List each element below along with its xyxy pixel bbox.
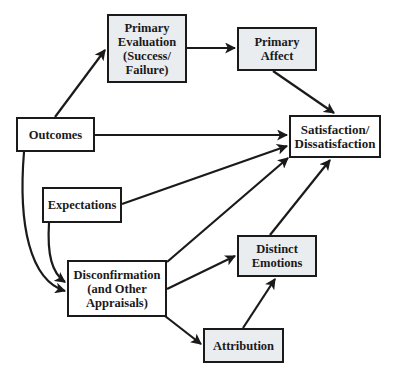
diagram-canvas: Outcomes Primary Evaluation (Success/ Fa…: [0, 0, 394, 376]
node-expectations: Expectations: [42, 187, 122, 223]
node-attribution: Attribution: [203, 328, 284, 363]
edge-primary-affect-to-satisfaction: [273, 71, 334, 113]
edge-disconfirmation-to-distinct-emotions: [167, 256, 235, 289]
edge-outcomes-to-primary-evaluation: [55, 50, 105, 117]
node-primary-affect: Primary Affect: [237, 27, 317, 71]
edge-distinct-emotions-to-satisfaction: [270, 160, 330, 235]
node-primary-evaluation: Primary Evaluation (Success/ Failure): [107, 14, 187, 83]
node-satisfaction-dissatisfaction: Satisfaction/ Dissatisfaction: [289, 115, 381, 158]
edge-expectations-to-satisfaction: [122, 146, 287, 204]
node-outcomes: Outcomes: [16, 117, 95, 152]
edge-attribution-to-distinct-emotions: [243, 279, 275, 328]
node-distinct-emotions: Distinct Emotions: [237, 235, 317, 277]
edge-expectations-to-disconfirmation: [49, 223, 65, 282]
node-disconfirmation: Disconfirmation (and Other Appraisals): [67, 260, 167, 317]
edge-disconfirmation-to-attribution: [165, 316, 201, 344]
